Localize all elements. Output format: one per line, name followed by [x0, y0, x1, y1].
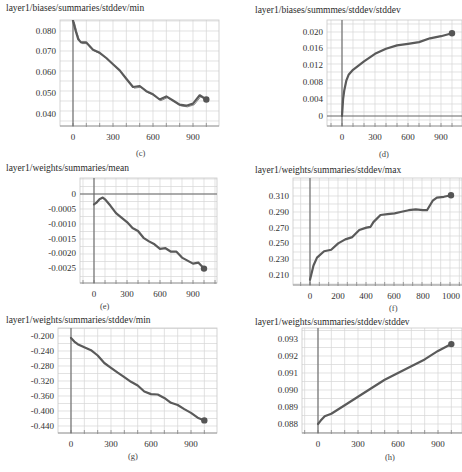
svg-text:0.230: 0.230 — [269, 254, 290, 264]
chart-caption: (h) — [385, 452, 395, 462]
svg-text:0.012: 0.012 — [303, 60, 323, 70]
svg-text:0.070: 0.070 — [36, 46, 57, 56]
x-tick-labels: 0300600900 — [316, 439, 446, 449]
svg-text:0.093: 0.093 — [278, 334, 299, 344]
svg-text:400: 400 — [359, 291, 373, 301]
svg-text:800: 800 — [416, 291, 430, 301]
line-chart-d: 0.0200.0160.0120.0080.00400300600900 — [231, 0, 462, 160]
panel-f: layer1/weights/summaries/stddev/max 0.31… — [231, 160, 462, 315]
svg-text:0: 0 — [69, 439, 74, 449]
line-chart-g: -0.200-0.240-0.280-0.320-0.360-0.400-0.4… — [0, 315, 231, 472]
svg-text:0.004: 0.004 — [303, 94, 324, 104]
svg-text:0: 0 — [72, 189, 77, 199]
svg-text:0.089: 0.089 — [278, 402, 299, 412]
svg-text:0.050: 0.050 — [36, 88, 57, 98]
svg-text:0.091: 0.091 — [278, 368, 298, 378]
end-point-marker — [201, 417, 207, 423]
svg-text:0: 0 — [319, 111, 324, 121]
svg-text:0.016: 0.016 — [303, 43, 324, 53]
line-chart-c: 0.0800.0700.0600.0500.0400300600900 — [0, 0, 231, 160]
grid-lines — [60, 20, 219, 126]
x-axis — [327, 123, 462, 127]
grid-lines — [58, 328, 217, 433]
svg-text:-0.0015: -0.0015 — [48, 234, 76, 244]
y-tick-labels: 0.0800.0700.0600.0500.040 — [36, 26, 57, 119]
line-chart-f: 0.3100.2900.2700.2500.2300.2100200400600… — [231, 160, 462, 315]
end-point-marker — [201, 265, 207, 271]
svg-text:0: 0 — [340, 132, 345, 142]
svg-text:0.250: 0.250 — [269, 238, 290, 248]
x-tick-labels: 0300600900 — [340, 132, 449, 142]
y-tick-labels: -0.200-0.240-0.280-0.320-0.360-0.400-0.4… — [31, 331, 55, 431]
data-line — [310, 195, 451, 280]
line-chart-e: 0-0.0005-0.0010-0.0015-0.0020-0.00250300… — [0, 160, 231, 315]
x-axis — [60, 123, 219, 127]
svg-text:900: 900 — [431, 439, 445, 449]
chart-caption: (f) — [389, 303, 398, 313]
svg-text:0: 0 — [92, 289, 97, 299]
svg-text:0.020: 0.020 — [303, 27, 324, 37]
svg-text:600: 600 — [146, 132, 160, 142]
svg-text:0.092: 0.092 — [278, 351, 298, 361]
end-point-marker — [449, 30, 455, 36]
svg-text:0.210: 0.210 — [269, 270, 290, 280]
svg-text:900: 900 — [184, 439, 198, 449]
svg-text:900: 900 — [186, 132, 200, 142]
svg-text:300: 300 — [104, 439, 118, 449]
x-tick-labels: 0300600900 — [71, 132, 201, 142]
svg-text:-0.200: -0.200 — [31, 331, 55, 341]
end-point-marker — [448, 341, 454, 347]
svg-text:600: 600 — [144, 439, 158, 449]
x-tick-labels: 02004006008001000 — [308, 291, 461, 301]
x-tick-labels: 0300600900 — [69, 439, 199, 449]
x-axis — [80, 280, 217, 284]
panel-e: layer1/weights/summaries/mean 0-0.0005-0… — [0, 160, 231, 315]
x-tick-labels: 0300600900 — [92, 289, 201, 299]
svg-text:300: 300 — [368, 132, 382, 142]
end-point-marker — [203, 96, 209, 102]
y-tick-labels: 0.0930.0920.0910.0900.0890.088 — [278, 334, 299, 429]
svg-text:-0.0005: -0.0005 — [48, 204, 76, 214]
svg-text:0.088: 0.088 — [278, 419, 299, 429]
svg-text:0.270: 0.270 — [269, 223, 290, 233]
panel-h: layer1/weights/summaries/stddev/stddev 0… — [231, 315, 462, 472]
svg-text:0.060: 0.060 — [36, 67, 57, 77]
svg-text:300: 300 — [106, 132, 120, 142]
svg-text:-0.440: -0.440 — [31, 421, 55, 431]
panel-c: layer1/biases/summaries/stddev/min 0.080… — [0, 0, 231, 160]
svg-text:0.090: 0.090 — [278, 385, 299, 395]
svg-text:0: 0 — [308, 291, 313, 301]
svg-text:-0.0020: -0.0020 — [48, 248, 76, 258]
svg-text:0.310: 0.310 — [269, 191, 290, 201]
svg-text:-0.0010: -0.0010 — [48, 219, 76, 229]
svg-text:0.080: 0.080 — [36, 26, 57, 36]
svg-text:300: 300 — [351, 439, 365, 449]
svg-text:0: 0 — [316, 439, 321, 449]
x-axis — [58, 430, 217, 434]
y-tick-labels: 0.0200.0160.0120.0080.0040 — [303, 27, 324, 121]
end-point-marker — [448, 192, 454, 198]
svg-text:900: 900 — [434, 132, 448, 142]
chart-caption: (d) — [379, 149, 389, 159]
svg-text:0.008: 0.008 — [303, 77, 324, 87]
y-tick-labels: 0-0.0005-0.0010-0.0015-0.0020-0.0025 — [48, 189, 76, 273]
svg-text:-0.400: -0.400 — [31, 406, 55, 416]
svg-text:-0.0025: -0.0025 — [48, 263, 76, 273]
svg-text:-0.280: -0.280 — [31, 361, 55, 371]
svg-text:200: 200 — [331, 291, 345, 301]
y-tick-labels: 0.3100.2900.2700.2500.2300.210 — [269, 191, 290, 280]
x-axis — [302, 430, 462, 434]
svg-text:600: 600 — [387, 291, 401, 301]
svg-text:600: 600 — [401, 132, 415, 142]
line-chart-h: 0.0930.0920.0910.0900.0890.0880300600900 — [231, 315, 462, 472]
svg-text:0: 0 — [71, 132, 76, 142]
chart-caption: (g) — [128, 451, 138, 461]
svg-text:0.040: 0.040 — [36, 109, 57, 119]
svg-text:-0.320: -0.320 — [31, 376, 55, 386]
svg-text:1000: 1000 — [442, 291, 461, 301]
grid-lines — [293, 178, 462, 285]
panel-d: layer1/biases/summmes/stddev/stddev 0.02… — [231, 0, 462, 160]
svg-text:-0.240: -0.240 — [31, 346, 55, 356]
svg-text:600: 600 — [391, 439, 405, 449]
panel-g: layer1/weights/summaries/stddev/min -0.2… — [0, 315, 231, 472]
